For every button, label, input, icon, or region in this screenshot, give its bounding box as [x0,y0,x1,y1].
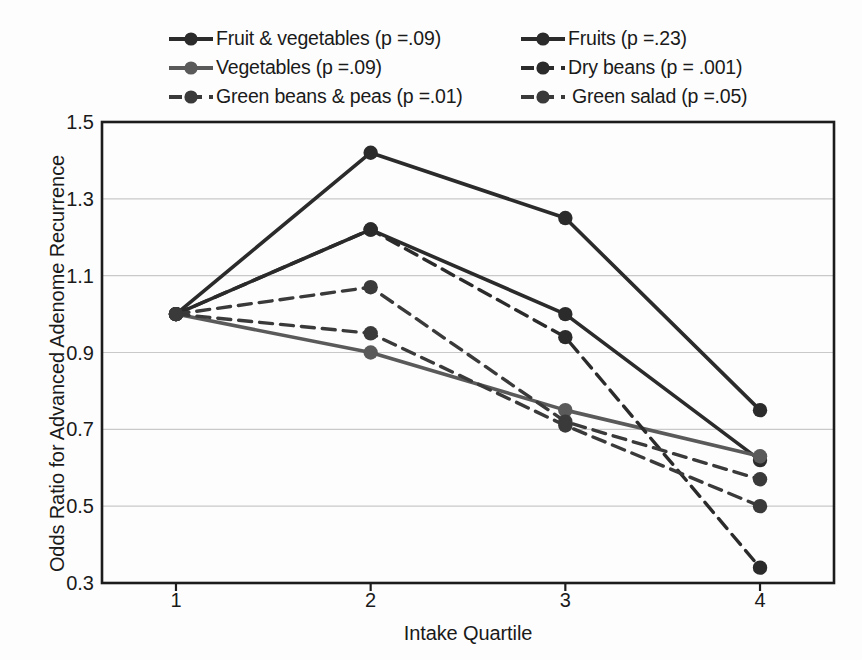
series-marker [558,307,572,321]
series-marker [558,330,572,344]
series-marker [753,499,767,513]
series-marker [753,403,767,417]
series-marker [363,345,377,359]
chart-plot-area [0,0,862,660]
series-marker [753,472,767,486]
series-line-green-beans-peas [176,287,760,479]
series-marker [753,449,767,463]
series-line-fruit-vegetables [176,230,760,461]
chart-page: Fruit & vegetables (p =.09)Fruits (p =.2… [0,0,862,660]
series-line-green-salad [176,314,760,506]
series-marker [169,307,183,321]
series-marker [558,211,572,225]
series-marker [753,560,767,574]
series-marker [558,418,572,432]
series-marker [363,146,377,160]
series-marker [363,326,377,340]
series-marker [363,280,377,294]
series-line-dry-beans [176,230,760,568]
series-line-vegetables [176,314,760,456]
series-marker [363,222,377,236]
